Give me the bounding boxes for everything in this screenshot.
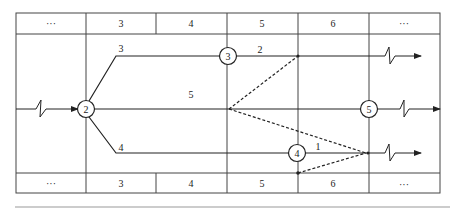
header-cell: ··· (46, 18, 56, 29)
svg-text:2: 2 (84, 104, 89, 115)
incoming-arrow (16, 100, 78, 117)
network-diagram: ··· 3 4 5 6 ··· ··· 3 4 5 6 ··· 3 5 4 2 (0, 0, 453, 216)
activity-label: 1 (316, 141, 321, 152)
footer-cell: 6 (331, 178, 336, 189)
outgoing-arrow-top (385, 47, 421, 64)
footer-cell: ··· (399, 179, 409, 190)
junction-dot (296, 171, 300, 175)
column-grid (86, 13, 369, 193)
svg-text:5: 5 (367, 104, 372, 115)
footer-cell: 4 (189, 178, 194, 189)
outgoing-arrow-bottom (385, 144, 421, 161)
svg-text:3: 3 (226, 51, 231, 62)
junction-dot (297, 55, 300, 58)
footer-cell: 5 (260, 178, 265, 189)
node-3: 3 (220, 48, 237, 65)
activity-label: 3 (119, 43, 124, 54)
dummy-4-to-bottom (298, 153, 366, 173)
outgoing-arrow-middle (378, 100, 440, 117)
footer-cell: ··· (46, 178, 56, 189)
footer-cell: 3 (119, 178, 124, 189)
activity-lines (89, 56, 385, 153)
svg-text:4: 4 (295, 148, 300, 159)
header-cell: 4 (189, 18, 194, 29)
header-cell: 3 (119, 18, 124, 29)
activity-2-3 (89, 56, 219, 101)
node-2: 2 (78, 101, 95, 118)
node-5: 5 (361, 101, 378, 118)
activity-label: 2 (258, 44, 263, 55)
dummy-mid-to-top (229, 56, 298, 109)
activity-label: 4 (119, 142, 124, 153)
header-cell: 6 (331, 18, 336, 29)
header-cell: 5 (260, 18, 265, 29)
header-cell: ··· (399, 18, 409, 29)
activity-label: 5 (189, 89, 194, 100)
junction-dot (367, 152, 370, 155)
node-4: 4 (289, 145, 306, 162)
